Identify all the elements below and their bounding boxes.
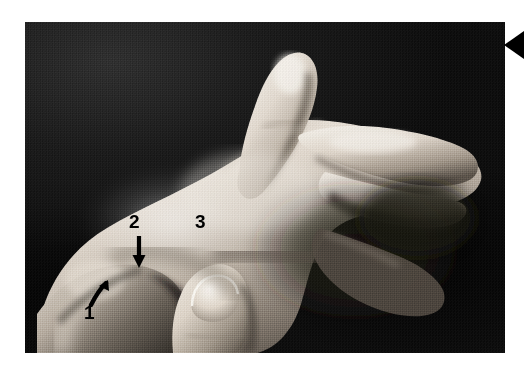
hand-illustration [25,22,505,353]
left-pointing-triangle-icon [504,31,524,59]
metacarpal-highlight [180,152,320,232]
index-knuckle-highlight [329,131,417,153]
finger-fold-shadow [359,180,475,256]
figure-root: 1 2 3 [0,0,526,370]
dorsum-to-finger-shadow [213,252,321,262]
thumb-tip-highlight [274,54,306,94]
hand-photograph: 1 2 3 [25,22,505,353]
